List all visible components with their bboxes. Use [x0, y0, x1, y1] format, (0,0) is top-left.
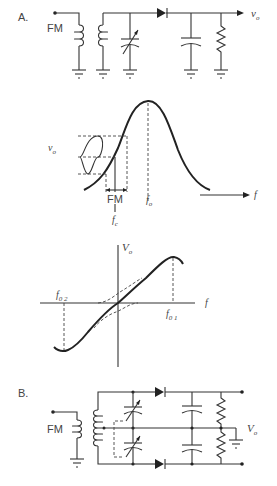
circuit-a: A. FM vo — [18, 7, 260, 78]
ground-icon — [72, 70, 86, 78]
circuit-a-fm-label: FM — [47, 22, 63, 34]
f01-label: f0 1 — [166, 308, 178, 322]
diode-icon — [157, 8, 166, 18]
vo-axis-label: Vo — [122, 241, 133, 256]
s-curve-plot: Vo f f0 2 f0 1 — [40, 241, 209, 367]
f02-label: f0 2 — [56, 289, 68, 303]
ground-icon — [214, 70, 228, 78]
circuit-b-fm-label: FM — [47, 423, 63, 435]
circuit-b: B. FM — [18, 387, 258, 469]
primary-coil-icon — [75, 25, 84, 70]
f-axis-label: f — [205, 297, 209, 308]
f-axis-label: f — [254, 189, 258, 200]
ground-icon — [70, 459, 84, 467]
circuit-b-vo-label: Vo — [247, 422, 258, 437]
fc-label: fc — [112, 214, 119, 228]
output-terminal-lower — [240, 462, 244, 466]
circuit-a-label: A. — [18, 11, 28, 23]
output-terminal-upper — [240, 390, 244, 394]
response-curve-plot: vo FM fc fo f — [48, 101, 258, 228]
vo-label: vo — [48, 142, 56, 156]
diode-upper-icon — [155, 387, 164, 397]
output-arrow-icon — [237, 10, 244, 16]
load-resistor-lower-icon — [217, 428, 225, 464]
axis-arrow-icon — [243, 192, 250, 198]
circuit-a-vo-label: vo — [251, 7, 260, 22]
load-resistor-upper-icon — [217, 392, 225, 428]
diode-lower-icon — [155, 459, 164, 469]
secondary-coil-icon — [99, 13, 108, 46]
ground-icon — [229, 440, 243, 448]
ground-icon — [123, 70, 137, 78]
load-resistor-icon — [217, 13, 225, 70]
fm-discriminator-figure: A. FM vo — [0, 0, 277, 486]
ground-icon — [184, 70, 198, 78]
primary-coil-icon — [73, 420, 82, 459]
ground-icon — [96, 70, 110, 78]
gang-link — [114, 421, 123, 457]
circuit-b-label: B. — [18, 387, 28, 399]
fm-deviation-label: FM — [107, 193, 123, 205]
fo-label: fo — [146, 194, 153, 208]
